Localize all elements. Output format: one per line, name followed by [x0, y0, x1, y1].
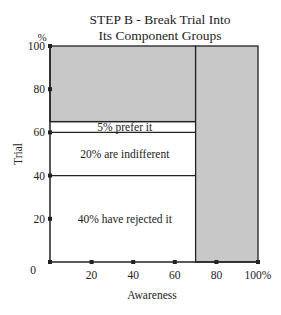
y-tick-mark: [48, 130, 52, 134]
shaded-region-1: [196, 46, 258, 262]
y-tick-mark: [48, 87, 52, 91]
x-tick-mark: [48, 260, 52, 264]
y-tick-mark: [48, 44, 52, 48]
x-tick-label: 40: [127, 269, 139, 281]
y-tick-mark: [48, 217, 52, 221]
segment-label: 20% are indifferent: [80, 148, 170, 160]
y-tick-label: 40: [34, 170, 46, 182]
y-tick-label: 60: [34, 126, 46, 138]
y-tick-mark: [48, 174, 52, 178]
x-tick-label: 100%: [245, 269, 272, 281]
x-axis-label: Awareness: [127, 289, 177, 301]
segment-label: 40% have rejected it: [78, 213, 173, 226]
x-tick-mark: [256, 260, 260, 264]
shaded-region-0: [50, 46, 196, 122]
x-tick-mark: [173, 260, 177, 264]
y-tick-label: 0: [30, 264, 36, 276]
y-axis-label: Trial: [12, 143, 24, 165]
x-tick-label: 20: [86, 269, 98, 281]
chart-plot: 40% have rejected it20% are indifferent5…: [0, 0, 281, 315]
x-tick-mark: [90, 260, 94, 264]
segment-label: 5% prefer it: [97, 121, 153, 134]
x-tick-mark: [131, 260, 135, 264]
y-tick-label: 80: [34, 83, 46, 95]
x-tick-mark: [214, 260, 218, 264]
y-unit-label: %: [37, 31, 46, 43]
y-tick-label: 20: [34, 213, 46, 225]
x-tick-label: 60: [169, 269, 181, 281]
x-tick-label: 80: [211, 269, 223, 281]
